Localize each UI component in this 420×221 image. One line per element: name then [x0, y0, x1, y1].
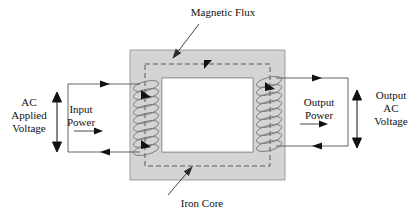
input-power-label: Input Power [56, 103, 106, 129]
primary-bottom-current-arrow [100, 149, 110, 156]
iron-core [130, 50, 285, 180]
core-window [162, 78, 253, 152]
secondary-top-current-arrow [312, 75, 322, 82]
magnetic-flux-label: Magnetic Flux [168, 6, 278, 19]
output-ac-voltage-label: Output AC Voltage [364, 89, 418, 128]
iron-core-label: Iron Core [147, 197, 257, 210]
primary-top-current-arrow [100, 81, 110, 88]
secondary-bottom-current-arrow [312, 143, 322, 150]
secondary-voltage-arrow [353, 90, 362, 148]
output-power-label: Output Power [292, 96, 346, 122]
ac-applied-voltage-label: AC Applied Voltage [2, 96, 56, 135]
transformer-diagram: Magnetic Flux Iron Core AC Applied Volta… [0, 0, 420, 221]
